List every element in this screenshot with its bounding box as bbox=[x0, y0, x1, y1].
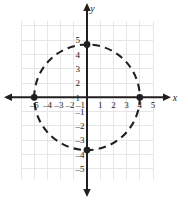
y-tick-label: –2 bbox=[75, 121, 85, 131]
coordinate-plane: x y –5 –4 –3 –2 –1 1 2 3 4 5 5 4 3 2 1 –… bbox=[0, 0, 188, 201]
x-tick-label: –3 bbox=[54, 100, 65, 110]
x-tick-label: –5 bbox=[29, 100, 40, 110]
y-axis-label: y bbox=[89, 3, 95, 14]
x-axis-left-arrow bbox=[4, 94, 12, 101]
x-tick-label: 5 bbox=[151, 100, 156, 110]
y-tick-label: 1 bbox=[76, 93, 81, 103]
y-tick-label: –5 bbox=[75, 164, 86, 174]
y-tick-label: 5 bbox=[76, 35, 81, 45]
x-tick-label: –2 bbox=[65, 100, 75, 110]
y-tick-label: –4 bbox=[75, 150, 86, 160]
x-axis-right-arrow bbox=[163, 94, 171, 101]
x-tick-label: 3 bbox=[124, 100, 129, 110]
x-axis-label: x bbox=[172, 92, 178, 103]
y-tick-label: 2 bbox=[76, 78, 81, 88]
x-tick-label: –4 bbox=[42, 100, 53, 110]
y-tick-label: 4 bbox=[76, 50, 81, 60]
x-tick-label: 4 bbox=[138, 100, 143, 110]
x-tick-label: 2 bbox=[111, 100, 116, 110]
y-tick-label: –3 bbox=[75, 135, 86, 145]
y-tick-label: –1 bbox=[75, 107, 85, 117]
y-tick-label: 3 bbox=[76, 64, 81, 74]
graph-figure: x y –5 –4 –3 –2 –1 1 2 3 4 5 5 4 3 2 1 –… bbox=[0, 0, 188, 201]
data-point-0-neg4 bbox=[84, 147, 91, 154]
data-point-0-4 bbox=[84, 41, 91, 48]
y-axis-down-arrow bbox=[83, 189, 90, 197]
data-point-neg4-0 bbox=[31, 94, 38, 101]
x-tick-label: 1 bbox=[98, 100, 103, 110]
x-tick-labels: –5 –4 –3 –2 –1 1 2 3 4 5 bbox=[29, 100, 156, 110]
data-point-4-0 bbox=[136, 94, 143, 101]
